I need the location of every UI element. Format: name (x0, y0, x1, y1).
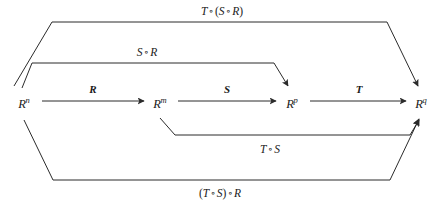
comp3-right: S (274, 143, 280, 155)
comp4-close-paren: ) (223, 187, 227, 199)
composition-label-TS-after-R: (T∘S)∘R (199, 188, 241, 200)
composition-label-T-after-SR: T∘(S∘R) (201, 6, 243, 18)
comp1-mid: S (219, 5, 225, 17)
comp2-left: S (137, 46, 143, 58)
comp1-op1: ∘ (207, 6, 215, 16)
composition-diagram: Rn Rm Rp Rq R S T T∘(S∘R) S∘R T∘S (T∘S)∘… (0, 0, 446, 209)
comp1-close-paren: ) (239, 5, 243, 17)
path-T-after-S (160, 118, 419, 135)
arrow-label-R: R (89, 84, 96, 95)
arrow-label-T: T (356, 84, 363, 95)
node-label-rn: Rn (18, 96, 30, 111)
node-label-rp: Rp (286, 96, 298, 111)
node-superscript-rp: p (294, 95, 298, 105)
comp4-op1: ∘ (209, 188, 217, 198)
arrow-label-S: S (224, 84, 230, 95)
diagram-canvas (0, 0, 446, 209)
node-label-rq: Rq (415, 96, 427, 111)
node-label-rm: Rm (153, 96, 166, 111)
path-S-after-R (22, 63, 288, 88)
path-T-after-SR (14, 22, 418, 86)
composition-label-S-after-R: S∘R (137, 47, 157, 59)
comp3-op1: ∘ (266, 144, 274, 154)
composition-label-T-after-S: T∘S (260, 144, 280, 156)
path-TS-after-R (24, 119, 419, 180)
comp2-right: R (150, 46, 157, 58)
comp4-right: R (234, 187, 241, 199)
node-superscript-rm: m (161, 95, 167, 105)
node-superscript-rn: n (26, 95, 30, 105)
node-superscript-rq: q (423, 95, 427, 105)
